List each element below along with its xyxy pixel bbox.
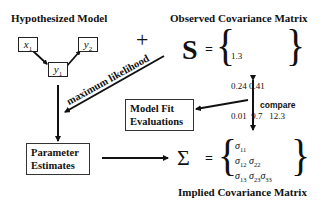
observed-equals: =	[205, 42, 213, 58]
cell-1-1: 1.3	[231, 51, 242, 61]
cell-2-2: 0.41	[249, 81, 265, 91]
cell-3-1: 0.01	[231, 111, 247, 121]
node-y2: y2	[78, 37, 98, 52]
observed-symbol: S	[182, 36, 198, 64]
edge-y1-y2	[66, 51, 80, 67]
node-y1: y1	[48, 62, 68, 77]
observed-row-3: 0.01 9.7 12.3	[231, 111, 285, 121]
plus-sign: +	[136, 30, 148, 50]
node-x1: x1	[18, 37, 38, 52]
edge-x1-y1	[33, 51, 47, 64]
implied-matrix-values: σ11 σ12 σ22 σ13 σ23σ33	[235, 140, 272, 185]
implied-close-brace: }	[291, 134, 310, 178]
sigma-22-sub: 22	[254, 161, 261, 168]
model-fit-line1: Model Fit	[130, 102, 189, 115]
observed-close-brace: }	[286, 24, 305, 68]
implied-symbol: Σ	[177, 147, 190, 169]
sigma-12-sub: 12	[240, 161, 247, 168]
model-fit-line2: Evaluations	[130, 115, 189, 128]
implied-row-2: σ12 σ22	[235, 155, 272, 170]
sigma-33-sub: 33	[265, 176, 272, 183]
model-fit-evaluations-box: Model Fit Evaluations	[125, 99, 194, 131]
parameter-estimates-box: Parameter Estimates	[26, 143, 90, 175]
observed-matrix-values: 1.3 0.24 0.41 0.01 9.7 12.3	[231, 31, 285, 131]
implied-matrix-title: Implied Covariance Matrix	[178, 186, 307, 198]
implied-equals: =	[205, 151, 213, 167]
node-y1-sub: 1	[59, 70, 63, 78]
parameter-estimates-line2: Estimates	[31, 159, 85, 172]
implied-row-3: σ13 σ23σ33	[235, 170, 272, 185]
cell-2-1: 0.24	[231, 81, 247, 91]
node-x1-sub: 1	[29, 45, 33, 53]
observed-row-2: 0.24 0.41	[231, 81, 285, 91]
sigma-11-sub: 11	[240, 146, 246, 153]
observed-row-1: 1.3	[231, 51, 285, 61]
cell-3-3: 12.3	[269, 111, 285, 121]
sigma-13-sub: 13	[240, 176, 247, 183]
implied-row-1: σ11	[235, 140, 272, 155]
hypothesized-model-title: Hypothesized Model	[11, 12, 107, 24]
cell-3-2: 9.7	[251, 111, 262, 121]
compare-label: compare	[260, 100, 295, 110]
node-y2-sub: 2	[89, 45, 93, 53]
parameter-estimates-line1: Parameter	[31, 146, 85, 159]
